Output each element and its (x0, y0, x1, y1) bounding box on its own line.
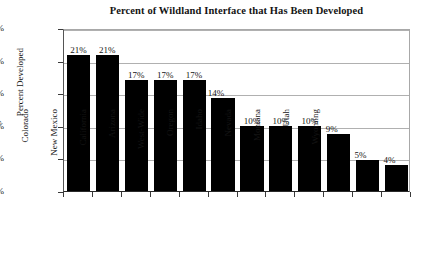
bar (356, 160, 379, 191)
x-tick-mark (352, 192, 353, 197)
bar-slot (356, 30, 379, 191)
x-category-label: Montana (252, 109, 262, 199)
x-tick-mark (208, 192, 209, 197)
x-tick-mark (150, 192, 151, 197)
x-category-label: Nevada (223, 109, 233, 199)
bar (327, 134, 350, 191)
bar-chart-figure: Percent of Wildland Interface that Has B… (0, 0, 428, 276)
x-category-label: Oregon (165, 109, 175, 199)
bar-value-label: 21% (67, 45, 90, 55)
bar-value-label: 17% (125, 70, 148, 80)
x-tick-mark (265, 192, 266, 197)
x-category-label: Utah (281, 109, 291, 199)
x-category-label: Wyoming (310, 109, 320, 199)
x-tick-mark (381, 192, 382, 197)
x-tick-mark (410, 192, 411, 197)
x-tick-mark (323, 192, 324, 197)
x-category-label: Idaho (194, 109, 204, 199)
y-tick-label: 25% (0, 23, 4, 33)
bar-slot (385, 30, 408, 191)
x-category-label: Arizona (107, 109, 117, 199)
x-tick-mark (294, 192, 295, 197)
x-category-label: New Mexico (49, 109, 59, 199)
chart-title: Percent of Wildland Interface that Has B… (63, 5, 410, 16)
x-tick-mark (121, 192, 122, 197)
x-tick-mark (63, 192, 64, 197)
bar-value-label: 21% (96, 45, 119, 55)
x-category-label: Colorado (20, 109, 30, 199)
x-tick-mark (92, 192, 93, 197)
x-category-label: West-Wide (136, 109, 146, 199)
y-tick-label: 15% (0, 88, 4, 98)
bar-value-label: 9% (320, 124, 343, 134)
bar (385, 165, 408, 191)
bar-value-label: 17% (154, 70, 177, 80)
x-tick-mark (179, 192, 180, 197)
bar-value-label: 5% (349, 150, 372, 160)
bar-value-label: 4% (378, 155, 401, 165)
bar-value-label: 14% (204, 88, 227, 98)
y-tick-label: 20% (0, 56, 4, 66)
bar-slot (327, 30, 350, 191)
bar-value-label: 17% (183, 70, 206, 80)
x-tick-mark (237, 192, 238, 197)
x-category-label: California (78, 109, 88, 199)
